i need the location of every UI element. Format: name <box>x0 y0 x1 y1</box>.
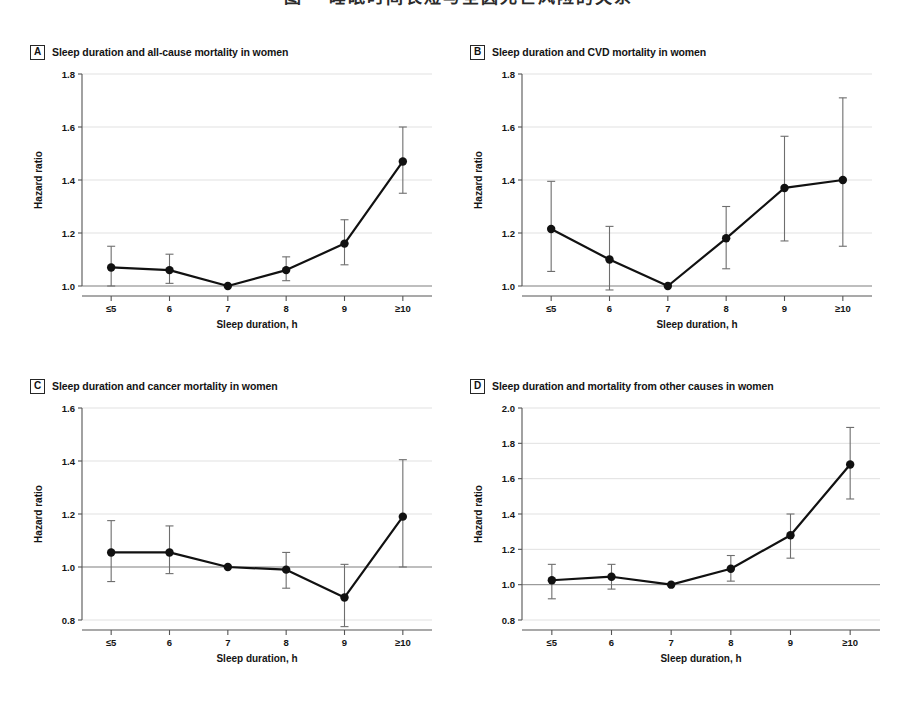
panel-c-header: C Sleep duration and cancer mortality in… <box>30 378 450 394</box>
panel-b-header: B Sleep duration and CVD mortality in wo… <box>470 44 890 60</box>
data-point-marker <box>664 282 672 290</box>
y-axis-title: Hazard ratio <box>33 151 44 209</box>
data-point-marker <box>780 184 788 192</box>
x-tick-label: 8 <box>284 303 289 314</box>
panel-d-title: Sleep duration and mortality from other … <box>492 380 774 392</box>
panel-a-header: A Sleep duration and all-cause mortality… <box>30 44 450 60</box>
panel-a-chart: 1.01.21.41.61.8≤56789≥10Sleep duration, … <box>30 60 440 332</box>
panel-d: D Sleep duration and mortality from othe… <box>470 378 900 666</box>
panel-b-letter: B <box>470 45 485 60</box>
y-tick-label: 1.6 <box>502 473 515 484</box>
x-tick-label: ≥10 <box>842 637 858 648</box>
data-point-marker <box>282 266 290 274</box>
y-tick-label: 1.0 <box>502 281 515 292</box>
series-line <box>111 517 403 598</box>
panel-d-gridlines <box>522 408 880 620</box>
y-axis-title: Hazard ratio <box>473 151 484 209</box>
panel-c-markers <box>107 512 407 601</box>
y-axis-title: Hazard ratio <box>33 485 44 543</box>
x-tick-label: 7 <box>225 637 230 648</box>
x-tick-label: ≤5 <box>106 303 117 314</box>
x-tick-label: 9 <box>342 637 347 648</box>
x-tick-label: 9 <box>788 637 793 648</box>
x-tick-label: ≤5 <box>547 637 558 648</box>
data-point-marker <box>340 239 348 247</box>
data-point-marker <box>165 548 173 556</box>
data-point-marker <box>282 565 290 573</box>
panel-d-header: D Sleep duration and mortality from othe… <box>470 378 900 394</box>
panel-a-letter: A <box>30 45 45 60</box>
data-point-marker <box>340 593 348 601</box>
data-point-marker <box>605 255 613 263</box>
panel-b: B Sleep duration and CVD mortality in wo… <box>470 44 890 332</box>
data-point-marker <box>107 263 115 271</box>
x-tick-label: 8 <box>284 637 289 648</box>
y-tick-label: 1.4 <box>502 175 516 186</box>
data-point-marker <box>399 512 407 520</box>
y-tick-label: 1.4 <box>502 509 516 520</box>
y-tick-label: 1.0 <box>502 579 515 590</box>
data-point-marker <box>607 573 615 581</box>
data-point-marker <box>786 531 794 539</box>
data-point-marker <box>727 565 735 573</box>
panel-b-gridlines <box>522 74 872 286</box>
panel-b-plot: 1.01.21.41.61.8≤56789≥10Sleep duration, … <box>470 60 890 332</box>
y-tick-label: 1.2 <box>502 544 515 555</box>
x-tick-label: 7 <box>225 303 230 314</box>
x-tick-label: 9 <box>782 303 787 314</box>
x-tick-label: 6 <box>167 637 172 648</box>
figure-top-caption: 图一 睡眠时间长短与全因死亡风险的关系 <box>0 0 917 9</box>
panel-b-chart: 1.01.21.41.61.8≤56789≥10Sleep duration, … <box>470 60 880 332</box>
y-tick-label: 1.4 <box>62 456 76 467</box>
y-tick-label: 1.6 <box>62 122 75 133</box>
data-point-marker <box>107 548 115 556</box>
figure-root: 图一 睡眠时间长短与全因死亡风险的关系 A Sleep duration and… <box>0 0 917 710</box>
series-line <box>552 465 850 585</box>
panel-c-plot: 0.81.01.21.41.6≤56789≥10Sleep duration, … <box>30 394 450 666</box>
x-tick-label: 6 <box>609 637 614 648</box>
x-tick-label: ≤5 <box>546 303 557 314</box>
y-tick-label: 0.8 <box>62 615 75 626</box>
data-point-marker <box>722 234 730 242</box>
panel-c-error-bars <box>107 460 407 627</box>
x-axis-title: Sleep duration, h <box>660 653 741 664</box>
y-tick-label: 1.2 <box>502 228 515 239</box>
panel-c-gridlines <box>82 408 432 620</box>
data-point-marker <box>548 576 556 584</box>
y-tick-label: 1.6 <box>62 403 75 414</box>
y-tick-label: 1.8 <box>62 69 75 80</box>
y-tick-label: 1.0 <box>62 281 75 292</box>
panel-a-error-bars <box>107 127 407 286</box>
y-tick-label: 0.8 <box>502 615 515 626</box>
y-tick-label: 1.8 <box>502 438 515 449</box>
x-tick-label: ≤5 <box>106 637 117 648</box>
x-tick-label: 9 <box>342 303 347 314</box>
data-point-marker <box>846 460 854 468</box>
data-point-marker <box>224 563 232 571</box>
x-tick-label: ≥10 <box>835 303 851 314</box>
panel-c-chart: 0.81.01.21.41.6≤56789≥10Sleep duration, … <box>30 394 440 666</box>
panel-a-plot: 1.01.21.41.61.8≤56789≥10Sleep duration, … <box>30 60 450 332</box>
data-point-marker <box>839 176 847 184</box>
y-tick-label: 1.2 <box>62 509 75 520</box>
panel-c-title: Sleep duration and cancer mortality in w… <box>52 380 277 392</box>
x-tick-label: 7 <box>665 303 670 314</box>
panel-b-title: Sleep duration and CVD mortality in wome… <box>492 46 706 58</box>
panel-a: A Sleep duration and all-cause mortality… <box>30 44 450 332</box>
y-tick-label: 2.0 <box>502 403 515 414</box>
panel-a-gridlines <box>82 74 432 286</box>
panel-d-letter: D <box>470 379 485 394</box>
x-tick-label: 6 <box>607 303 612 314</box>
x-axis-title: Sleep duration, h <box>216 319 297 330</box>
panel-d-chart: 0.81.01.21.41.61.82.0≤56789≥10Sleep dura… <box>470 394 888 666</box>
panel-d-plot: 0.81.01.21.41.61.82.0≤56789≥10Sleep dura… <box>470 394 900 666</box>
data-point-marker <box>547 225 555 233</box>
y-tick-label: 1.2 <box>62 228 75 239</box>
x-tick-label: 7 <box>669 637 674 648</box>
y-tick-label: 1.4 <box>62 175 76 186</box>
x-tick-label: 8 <box>724 303 729 314</box>
y-tick-label: 1.0 <box>62 562 75 573</box>
x-axis-title: Sleep duration, h <box>216 653 297 664</box>
panel-d-markers <box>548 460 855 589</box>
panel-c: C Sleep duration and cancer mortality in… <box>30 378 450 666</box>
